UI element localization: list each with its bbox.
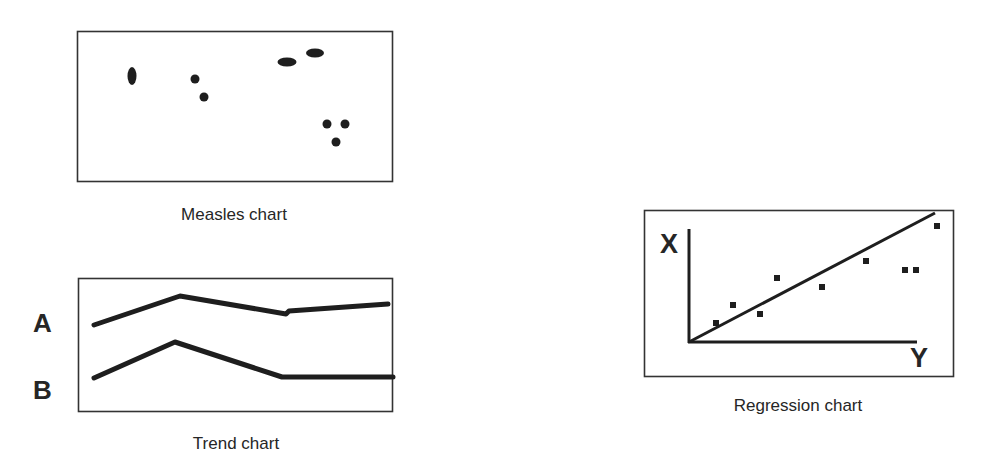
regression-axis-y-label: Y bbox=[910, 343, 928, 374]
trend-line-b bbox=[94, 342, 393, 378]
trend-chart-frame bbox=[79, 279, 393, 412]
regression-axis-x-label: X bbox=[660, 229, 678, 260]
measles-chart bbox=[78, 32, 393, 182]
measles-spot bbox=[332, 138, 341, 147]
trend-chart-caption: Trend chart bbox=[193, 434, 279, 454]
trend-series-label-b: B bbox=[33, 375, 52, 406]
regression-data-point bbox=[713, 320, 719, 326]
regression-data-point bbox=[934, 223, 940, 229]
trend-line-a bbox=[94, 296, 388, 325]
trend-series-label-a: A bbox=[33, 308, 52, 339]
regression-data-point bbox=[774, 275, 780, 281]
measles-spot bbox=[128, 67, 137, 85]
regression-data-point bbox=[913, 267, 919, 273]
regression-data-point bbox=[757, 311, 763, 317]
regression-chart-caption: Regression chart bbox=[734, 396, 863, 416]
trend-chart bbox=[79, 279, 394, 412]
measles-spot bbox=[323, 120, 332, 129]
measles-spot bbox=[200, 93, 209, 102]
regression-chart bbox=[645, 211, 954, 377]
regression-data-point bbox=[902, 267, 908, 273]
regression-data-point bbox=[730, 302, 736, 308]
regression-trendline bbox=[689, 213, 935, 342]
measles-spot bbox=[341, 120, 350, 129]
regression-chart-frame bbox=[645, 211, 954, 377]
regression-data-point bbox=[819, 284, 825, 290]
measles-spot bbox=[191, 75, 200, 84]
regression-data-point bbox=[863, 258, 869, 264]
measles-spot bbox=[306, 49, 324, 58]
measles-spot bbox=[278, 58, 297, 67]
measles-chart-caption: Measles chart bbox=[181, 205, 287, 225]
measles-points bbox=[128, 49, 350, 147]
measles-chart-frame bbox=[78, 32, 393, 182]
